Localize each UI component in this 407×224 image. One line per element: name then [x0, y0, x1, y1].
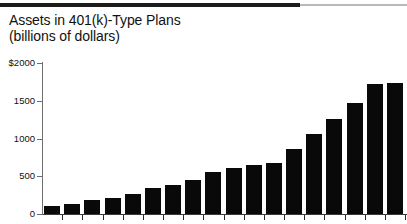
bar: [165, 185, 181, 214]
x-axis-tick: [324, 215, 325, 220]
bar: [347, 103, 363, 214]
bar: [125, 194, 141, 214]
x-axis-tick: [203, 215, 204, 220]
x-axis-tick: [143, 215, 144, 220]
x-axis-tick: [264, 215, 265, 220]
bar: [64, 204, 80, 214]
bar: [185, 180, 201, 214]
y-axis-tick: [37, 214, 43, 215]
bar: [286, 149, 302, 214]
x-axis-tick: [163, 215, 164, 220]
chart-title-block: Assets in 401(k)-Type Plans (billions of…: [9, 12, 339, 44]
y-axis-tick-label: $2000: [1, 58, 35, 68]
bar: [44, 206, 60, 214]
x-axis-tick: [284, 215, 285, 220]
x-axis-tick: [405, 215, 406, 220]
bar: [387, 83, 403, 214]
bar: [246, 165, 262, 214]
x-axis-tick: [244, 215, 245, 220]
x-axis-line: [42, 214, 407, 215]
top-rule-light: [300, 4, 407, 6]
bar: [306, 134, 322, 214]
x-axis-tick: [62, 215, 63, 220]
bar: [367, 84, 383, 214]
x-axis-tick: [224, 215, 225, 220]
top-rule-dark: [0, 3, 300, 7]
y-axis-tick-label: 0: [1, 209, 35, 219]
x-axis-tick: [385, 215, 386, 220]
x-axis-tick: [365, 215, 366, 220]
bar: [266, 163, 282, 214]
x-axis-tick: [345, 215, 346, 220]
x-axis-tick: [304, 215, 305, 220]
y-axis-tick-label: 500: [1, 171, 35, 181]
x-axis-tick: [123, 215, 124, 220]
bar-series: [42, 63, 407, 214]
bar: [145, 188, 161, 214]
bar: [105, 198, 121, 214]
y-axis-tick-label: 1000: [1, 134, 35, 144]
bar: [84, 200, 100, 214]
page-title: Assets in 401(k)-Type Plans: [9, 12, 339, 28]
x-axis-tick: [183, 215, 184, 220]
x-axis-tick: [103, 215, 104, 220]
y-axis-tick-label: 1500: [1, 96, 35, 106]
chart-figure: Assets in 401(k)-Type Plans (billions of…: [0, 0, 407, 224]
chart-subtitle: (billions of dollars): [9, 28, 339, 44]
bar: [326, 119, 342, 215]
bar: [205, 172, 221, 214]
bar: [226, 168, 242, 214]
x-axis-tick: [82, 215, 83, 220]
